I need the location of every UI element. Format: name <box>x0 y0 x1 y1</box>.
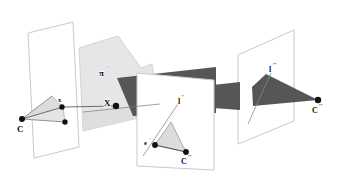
label-space-point: X <box>104 98 111 108</box>
image-plane-middle <box>137 73 214 170</box>
label-camera-center-3-prime-marks: ′′ <box>319 103 323 109</box>
image-plane-left <box>28 22 79 158</box>
label-epipole-2: e <box>144 139 147 146</box>
label-plane-pi: π <box>99 68 104 78</box>
point-X <box>113 103 119 109</box>
point-e-prime <box>152 142 158 148</box>
multi-view-geometry-figure: C x π ′ X l ′ e ′ C ′′ l ′′ C ′′ <box>0 0 343 180</box>
label-camera-center-1: C <box>17 124 24 134</box>
figure-canvas: C x π ′ X l ′ e ′ C ′′ l ′′ C ′′ <box>0 0 343 180</box>
point-lower-ray <box>62 119 67 124</box>
point-x <box>59 104 64 109</box>
label-camera-center-2: C <box>181 157 187 166</box>
point-C <box>19 116 25 122</box>
label-line-3-prime-marks: ′′ <box>273 62 277 68</box>
dark-wedge-segment-2 <box>213 82 240 110</box>
label-camera-center-3: C <box>312 106 318 115</box>
label-camera-center-2-prime-marks: ′′ <box>188 154 192 160</box>
